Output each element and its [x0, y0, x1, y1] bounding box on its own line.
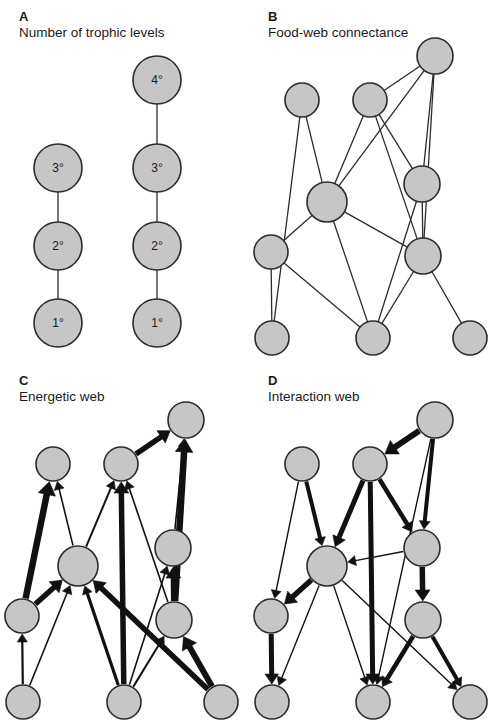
- web-link: [283, 262, 361, 327]
- web-arrow: [415, 567, 430, 601]
- web-link: [431, 271, 462, 324]
- web-node: [58, 546, 98, 586]
- panel-d: D Interaction web: [249, 364, 498, 728]
- web-node: [6, 685, 40, 719]
- node-label: 3°: [151, 161, 163, 175]
- web-link: [422, 201, 423, 239]
- web-node: [168, 402, 204, 438]
- web-node: [405, 238, 441, 274]
- web-node: [307, 546, 347, 586]
- node-label: 4°: [151, 73, 163, 87]
- web-node: [254, 599, 288, 633]
- web-node: [107, 685, 141, 719]
- web-node: [285, 447, 319, 481]
- web-arrow: [136, 431, 170, 454]
- panel-c-graphic: [0, 364, 249, 728]
- panel-a-graphic: 3°2°1°4°3°2°1°: [0, 0, 249, 364]
- web-arrow: [17, 634, 27, 684]
- web-node: [307, 182, 347, 222]
- web-node: [285, 83, 319, 117]
- web-arrow: [382, 636, 413, 686]
- web-node: [156, 602, 192, 638]
- web-arrow: [342, 580, 457, 689]
- web-arrow: [114, 482, 129, 684]
- panel-d-graphic: [249, 364, 498, 728]
- web-arrow: [366, 482, 379, 684]
- web-arrow: [35, 580, 62, 604]
- web-arrow: [93, 580, 208, 689]
- web-node: [453, 685, 487, 719]
- web-node: [104, 447, 138, 481]
- web-link: [274, 116, 300, 322]
- node-label: 3°: [52, 161, 64, 175]
- web-node: [353, 83, 387, 117]
- web-arrow: [86, 481, 115, 547]
- web-node: [404, 530, 440, 566]
- web-arrow: [432, 636, 461, 686]
- panel-a: A Number of trophic levels 3°2°1°4°3°2°1…: [0, 0, 249, 364]
- web-arrow: [385, 431, 419, 454]
- web-node: [254, 235, 288, 269]
- web-arrow: [271, 482, 298, 599]
- web-node: [417, 38, 453, 74]
- panel-c: C Energetic web: [0, 364, 249, 728]
- web-node: [356, 321, 390, 355]
- web-node: [204, 685, 238, 719]
- web-link: [383, 66, 421, 92]
- web-arrow: [306, 481, 325, 545]
- web-node: [255, 685, 289, 719]
- web-node: [405, 602, 441, 638]
- web-link: [333, 220, 368, 323]
- node-label: 1°: [151, 316, 163, 330]
- web-node: [453, 321, 487, 355]
- web-node: [404, 166, 440, 202]
- panel-b-graphic: [249, 0, 498, 364]
- web-node: [255, 321, 289, 355]
- web-arrow: [26, 482, 56, 599]
- web-node: [155, 530, 191, 566]
- web-node: [36, 447, 70, 481]
- node-label: 2°: [151, 239, 163, 253]
- web-link: [271, 268, 272, 322]
- web-arrow: [348, 552, 404, 566]
- web-link: [344, 211, 409, 247]
- web-node: [5, 599, 39, 633]
- panel-b: B Food-web connectance: [249, 0, 498, 364]
- web-arrow: [379, 479, 412, 532]
- figure-food-web-panels: A Number of trophic levels 3°2°1°4°3°2°1…: [0, 0, 498, 728]
- web-link: [424, 73, 434, 239]
- web-arrow: [333, 481, 363, 547]
- web-node: [353, 447, 387, 481]
- web-link: [306, 116, 323, 184]
- web-arrow: [284, 580, 311, 604]
- web-arrow: [277, 585, 319, 685]
- web-node: [356, 685, 390, 719]
- web-link: [334, 115, 363, 185]
- web-arrow: [175, 439, 193, 601]
- web-arrow: [54, 481, 73, 545]
- web-arrow: [265, 634, 278, 684]
- node-label: 2°: [52, 239, 64, 253]
- node-label: 1°: [52, 316, 64, 330]
- web-node: [417, 402, 453, 438]
- web-link: [424, 73, 434, 167]
